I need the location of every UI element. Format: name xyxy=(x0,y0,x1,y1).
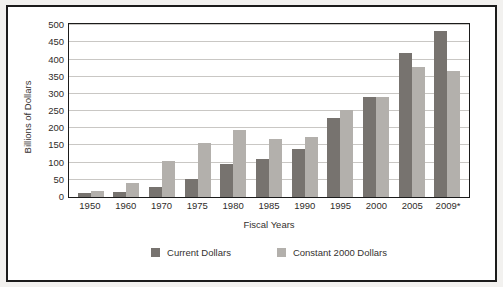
bar xyxy=(162,161,175,197)
bar xyxy=(269,139,282,197)
x-axis-tick-label: 2005 xyxy=(394,200,430,211)
y-axis-tick-label: 0 xyxy=(59,191,64,202)
bar-group xyxy=(287,24,323,197)
bar xyxy=(149,187,162,197)
y-axis-tick-label: 300 xyxy=(48,87,64,98)
y-axis-tick-label: 250 xyxy=(48,105,64,116)
bar-group xyxy=(144,24,180,197)
x-axis-tick-label: 2009* xyxy=(430,200,466,211)
bar-group xyxy=(429,24,465,197)
legend-item[interactable]: Current Dollars xyxy=(151,247,231,258)
x-axis-tick-label: 1995 xyxy=(323,200,359,211)
plot-area: 050100150200250300350400450500 xyxy=(68,23,470,198)
x-axis-tick-label: 1990 xyxy=(287,200,323,211)
bar xyxy=(376,97,389,197)
bar-group xyxy=(358,24,394,197)
y-axis-tick-label: 500 xyxy=(48,19,64,30)
bar xyxy=(412,67,425,197)
bar xyxy=(256,159,269,197)
bar xyxy=(447,71,460,197)
bar xyxy=(91,191,104,197)
bar xyxy=(399,53,412,197)
bar-group xyxy=(216,24,252,197)
bar-group xyxy=(109,24,145,197)
bar-groups xyxy=(69,24,469,197)
legend-label: Constant 2000 Dollars xyxy=(293,247,387,258)
x-axis-tick-label: 1970 xyxy=(144,200,180,211)
y-axis-tick-label: 50 xyxy=(53,173,64,184)
legend-swatch-icon xyxy=(151,248,160,257)
bar xyxy=(78,193,91,197)
bar-group xyxy=(73,24,109,197)
bar xyxy=(233,130,246,197)
bar xyxy=(126,183,139,197)
y-axis-tick-label: 350 xyxy=(48,70,64,81)
bar-group xyxy=(251,24,287,197)
bar xyxy=(292,149,305,197)
bar xyxy=(220,164,233,197)
legend-label: Current Dollars xyxy=(167,247,231,258)
chart-legend: Current DollarsConstant 2000 Dollars xyxy=(68,247,470,258)
bar-group xyxy=(180,24,216,197)
bar xyxy=(434,31,447,197)
x-axis-tick-label: 1960 xyxy=(108,200,144,211)
y-axis-tick-label: 400 xyxy=(48,53,64,64)
bar xyxy=(363,97,376,197)
legend-item[interactable]: Constant 2000 Dollars xyxy=(277,247,387,258)
bar xyxy=(113,192,126,197)
bar xyxy=(305,137,318,197)
legend-swatch-icon xyxy=(277,248,286,257)
y-axis-title: Billions of Dollars xyxy=(20,29,34,204)
y-axis-tick-label: 450 xyxy=(48,36,64,47)
x-axis-tick-labels: 1950196019701975198019851990199520002005… xyxy=(68,200,470,211)
x-axis-tick-label: 2000 xyxy=(359,200,395,211)
figure-container: Billions of Dollars 05010015020025030035… xyxy=(0,0,503,287)
x-axis-tick-label: 1980 xyxy=(215,200,251,211)
y-axis-title-text: Billions of Dollars xyxy=(22,80,33,153)
y-axis-tick-label: 100 xyxy=(48,156,64,167)
chart-frame: Billions of Dollars 05010015020025030035… xyxy=(6,5,497,282)
bar xyxy=(327,118,340,197)
bar-group xyxy=(394,24,430,197)
bar-group xyxy=(322,24,358,197)
y-axis-tick-label: 150 xyxy=(48,139,64,150)
bar xyxy=(185,179,198,197)
bar xyxy=(340,110,353,197)
x-axis-tick-label: 1985 xyxy=(251,200,287,211)
x-axis-tick-label: 1950 xyxy=(72,200,108,211)
x-axis-tick-label: 1975 xyxy=(179,200,215,211)
x-axis-title: Fiscal Years xyxy=(68,219,470,230)
bar xyxy=(198,143,211,197)
y-axis-tick-label: 200 xyxy=(48,122,64,133)
